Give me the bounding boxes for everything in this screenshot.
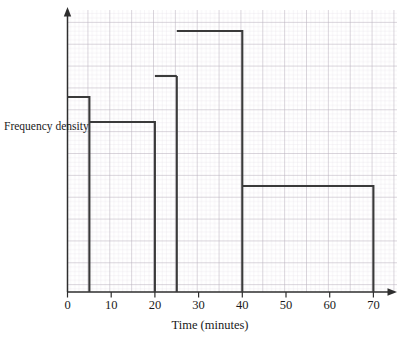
y-axis-label: Frequency density	[4, 119, 66, 133]
x-tick-label-30: 30	[187, 298, 211, 313]
x-tick-label-40: 40	[230, 298, 254, 313]
histogram-canvas	[0, 0, 411, 341]
x-axis-ticks	[68, 292, 374, 298]
x-axis-label-text: Time (minutes)	[172, 318, 249, 332]
x-tick-label-70: 70	[361, 298, 385, 313]
y-axis-label-text: Frequency density	[4, 120, 89, 132]
x-tick-label-20: 20	[143, 298, 167, 313]
x-axis-label: Time (minutes)	[140, 318, 280, 333]
grid-paper	[67, 10, 397, 292]
histogram-figure: Frequency density Time (minutes) 0 10 20…	[0, 0, 411, 341]
x-tick-label-60: 60	[318, 298, 342, 313]
x-tick-label-50: 50	[274, 298, 298, 313]
x-tick-label-10: 10	[99, 298, 123, 313]
x-tick-label-0: 0	[56, 298, 80, 313]
